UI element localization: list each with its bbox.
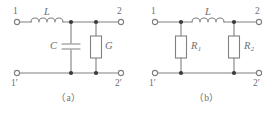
node-b-bottom-right [232,71,236,75]
circuit-diagram-b: 1 2 1′ 2′ L R1 R2 （b） [138,0,275,114]
terminal-label-a-2: 2 [117,7,122,17]
terminal-label-b-2: 2 [255,7,260,17]
two-port-network-figure: 1 2 1′ 2′ L C G （a） [0,0,275,114]
node-a-top-right [94,20,98,24]
terminal-a-2 [118,19,123,24]
terminal-a-1 [14,19,19,24]
component-label-a-inductor: L [44,7,50,18]
terminal-b-2-prime [256,70,261,75]
node-a-bottom-right [94,71,98,75]
resistor-b-r2-body [229,36,240,58]
component-label-b-resistor-1-base: R [191,40,197,51]
terminal-label-a-2-prime: 2′ [115,79,122,89]
terminal-label-b-2-prime: 2′ [253,79,260,89]
component-label-a-capacitor: C [50,41,57,52]
resistor-a-g-body [91,36,102,58]
component-label-a-conductance: G [105,41,113,52]
caption-b: （b） [138,94,275,104]
terminal-label-b-1: 1 [151,7,156,17]
circuit-diagram-a: 1 2 1′ 2′ L C G （a） [0,0,137,114]
node-a-bottom-left [69,71,73,75]
terminal-b-1-prime [152,70,157,75]
component-label-b-resistor-2: R2 [244,41,254,53]
terminal-a-1-prime [14,70,19,75]
component-label-b-resistor-1: R1 [191,41,201,53]
component-label-b-inductor: L [205,7,211,18]
node-a-top-left [69,20,73,24]
inductor-a-coil [31,18,63,22]
caption-a: （a） [0,94,137,104]
inductor-b-coil [192,18,224,22]
node-b-top-right [232,20,236,24]
terminal-b-2 [256,19,261,24]
terminal-b-1 [152,19,157,24]
component-label-b-resistor-2-subscript: 2 [251,45,255,53]
component-label-b-resistor-2-base: R [244,40,250,51]
terminal-a-2-prime [118,70,123,75]
terminal-label-b-1-prime: 1′ [149,79,156,89]
component-label-b-resistor-1-subscript: 1 [198,45,202,53]
terminal-label-a-1-prime: 1′ [11,79,18,89]
node-b-top-left [179,20,183,24]
node-b-bottom-left [179,71,183,75]
terminal-label-a-1: 1 [13,7,18,17]
resistor-b-r1-body [176,36,187,58]
